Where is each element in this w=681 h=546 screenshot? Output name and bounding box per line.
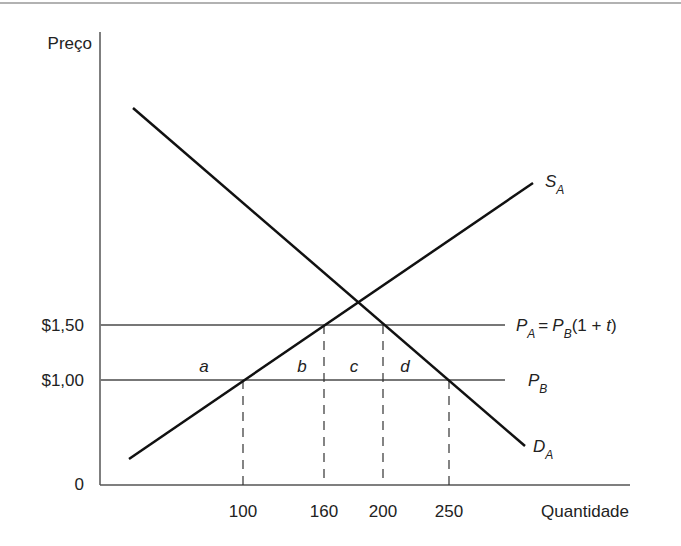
y-tick-150: $1,50	[41, 316, 84, 335]
pa-label-sub2: B	[564, 327, 572, 341]
x-tick-100: 100	[229, 502, 257, 521]
demand-label-sub: A	[544, 448, 553, 462]
x-tick-160: 160	[310, 502, 338, 521]
pb-label-sub: B	[539, 382, 547, 396]
y-axis-label: Preço	[48, 34, 92, 53]
pa-label-p: P	[516, 316, 528, 335]
area-label-b: b	[297, 357, 306, 376]
y-tick-100: $1,00	[41, 371, 84, 390]
demand-curve	[133, 108, 525, 446]
area-label-c: c	[350, 357, 359, 376]
supply-label: SA	[545, 172, 564, 197]
supply-label-sub: A	[555, 183, 564, 197]
pa-label: PA=PB(1 + t)	[516, 316, 617, 341]
pb-label: PB	[528, 371, 547, 396]
chart: Preço $1,50 $1,00 0 100 160 200 250 Quan…	[0, 0, 681, 546]
pa-label-open: (1 +	[572, 316, 607, 335]
pa-label-close: )	[611, 316, 617, 335]
area-label-d: d	[400, 357, 410, 376]
area-label-a: a	[199, 357, 208, 376]
pb-label-p: P	[528, 371, 540, 390]
x-axis-label: Quantidade	[541, 502, 629, 521]
pa-label-sub: A	[526, 327, 535, 341]
demand-label: DA	[533, 437, 553, 462]
pa-label-p2: P	[552, 316, 564, 335]
demand-label-main: D	[533, 437, 545, 456]
x-tick-200: 200	[369, 502, 397, 521]
y-tick-0: 0	[75, 475, 84, 494]
supply-curve	[129, 183, 533, 459]
pa-label-eq: =	[538, 316, 548, 335]
x-tick-250: 250	[435, 502, 463, 521]
supply-label-main: S	[545, 172, 557, 191]
dashed-guides	[243, 325, 449, 485]
